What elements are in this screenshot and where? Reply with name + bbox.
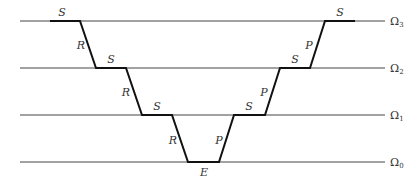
label-r-3-2: R [76,39,85,52]
label-s-1-left: S [153,100,161,113]
label-s-top-left: S [58,6,66,19]
label-s-1-right: S [245,100,253,113]
label-s-2-left: S [107,53,115,66]
level-label-omega-3: Ω3 [390,15,404,29]
level-diagram: S R S R S R E P S P S P S Ω3 Ω2 Ω1 Ω0 [0,0,419,183]
label-s-top-right: S [336,6,344,19]
label-p-0-1: P [214,134,223,147]
level-label-omega-2: Ω2 [390,62,404,76]
level-label-omega-1: Ω1 [390,109,404,123]
label-r-2-1: R [121,86,130,99]
label-r-1-0: R [168,134,177,147]
label-e-bottom: E [199,166,208,179]
label-s-2-right: S [291,53,299,66]
level-label-omega-0: Ω0 [390,156,404,170]
label-p-2-3: P [304,39,313,52]
label-p-1-2: P [259,86,268,99]
